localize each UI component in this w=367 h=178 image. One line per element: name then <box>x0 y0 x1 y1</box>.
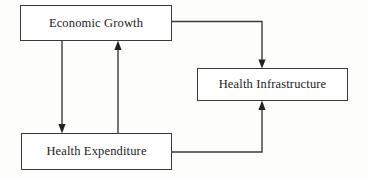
node-health-expenditure[interactable]: Health Expenditure <box>21 133 172 170</box>
node-economic-growth-label: Economic Growth <box>49 17 143 30</box>
node-health-infrastructure-label: Health Infrastructure <box>219 78 327 91</box>
edge-economic-growth-to-health-infrastructure <box>172 22 266 69</box>
edge-economic-growth-to-health-expenditure <box>58 41 65 134</box>
node-economic-growth[interactable]: Economic Growth <box>20 5 172 41</box>
node-health-expenditure-label: Health Expenditure <box>46 145 146 158</box>
edge-health-expenditure-to-health-infrastructure <box>172 101 266 153</box>
edge-health-expenditure-to-economic-growth <box>114 41 121 134</box>
node-health-infrastructure[interactable]: Health Infrastructure <box>197 68 348 101</box>
diagram-canvas: Economic Growth Health Infrastructure He… <box>0 0 367 178</box>
